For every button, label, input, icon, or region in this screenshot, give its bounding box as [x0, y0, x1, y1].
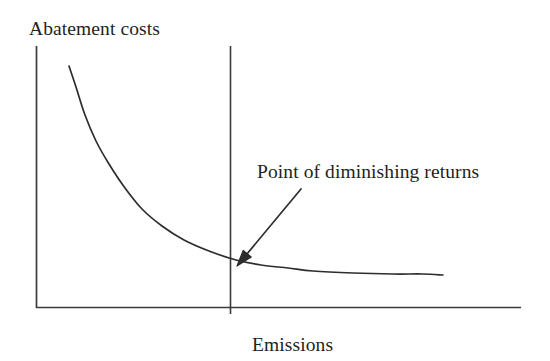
x-axis-title: Emissions — [252, 335, 333, 355]
annotation-arrow-shaft — [245, 189, 301, 257]
y-axis-title: Abatement costs — [29, 19, 160, 39]
annotation-label: Point of diminishing returns — [257, 162, 479, 182]
figure-container: Abatement costs Emissions Point of dimin… — [0, 0, 550, 361]
